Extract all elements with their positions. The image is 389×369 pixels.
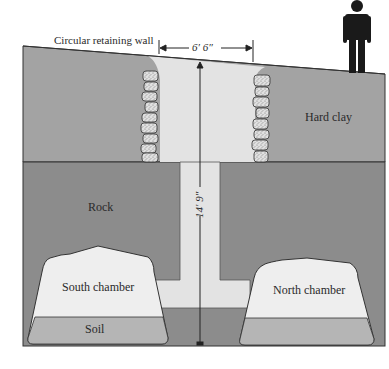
height-dimension-label: 14′ 9″ (193, 192, 205, 218)
south-chamber-label: South chamber (62, 280, 134, 295)
hard-clay-label: Hard clay (305, 110, 352, 125)
soil-label: Soil (85, 322, 104, 337)
width-dimension-label: 6′ 6″ (192, 41, 213, 53)
person-silhouette-icon (343, 0, 371, 73)
well-cross-section-diagram (0, 0, 389, 369)
north-chamber-label: North chamber (273, 283, 345, 298)
rock-label: Rock (88, 200, 113, 215)
north-chamber (240, 258, 374, 345)
retaining-wall-label: Circular retaining wall (54, 34, 154, 46)
upper-shaft (148, 56, 265, 162)
